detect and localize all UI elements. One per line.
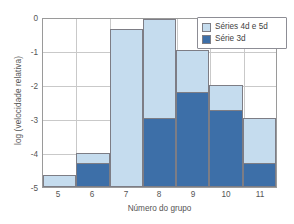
x-tick-label: 11 — [248, 190, 272, 199]
bar-dark-group-9 — [176, 92, 209, 187]
y-tick-label: -5 — [4, 184, 38, 193]
y-axis-tick-labels: 0 -1 -2 -3 -4 -5 — [0, 18, 38, 188]
y-tick-label: -3 — [4, 116, 38, 125]
legend-item-series-3d: Série 3d — [202, 34, 282, 44]
x-tick-label: 9 — [181, 190, 205, 199]
light-blue-swatch-icon — [202, 23, 211, 32]
x-tick-label: 8 — [147, 190, 171, 199]
y-tick-label: 0 — [4, 14, 38, 23]
x-tick-label: 6 — [80, 190, 104, 199]
bar-dark-group-11 — [243, 163, 276, 187]
legend-label: Série 3d — [215, 34, 246, 44]
bar-dark-group-6 — [76, 163, 109, 187]
x-axis-tick-labels: 5 6 7 8 9 10 11 — [42, 190, 277, 204]
bar-dark-group-10 — [209, 110, 242, 187]
legend-item-series-4d-5d: Séries 4d e 5d — [202, 22, 282, 32]
legend-label: Séries 4d e 5d — [215, 22, 268, 32]
chart-legend: Séries 4d e 5d Série 3d — [197, 17, 287, 49]
bar-light-group-5 — [43, 175, 76, 187]
y-tick-label: -4 — [4, 150, 38, 159]
x-axis-title: Número do grupo — [42, 204, 277, 213]
x-tick-label: 7 — [114, 190, 138, 199]
x-tick-label: 10 — [214, 190, 238, 199]
chart-figure: log (velocidade relativa) 0 -1 -2 -3 -4 … — [0, 0, 294, 224]
y-tick-label: -2 — [4, 82, 38, 91]
dark-blue-swatch-icon — [202, 35, 211, 44]
x-tick-label: 5 — [46, 190, 70, 199]
bar-light-group-7 — [110, 29, 143, 187]
y-tick-label: -1 — [4, 48, 38, 57]
bar-dark-group-8 — [143, 118, 176, 187]
